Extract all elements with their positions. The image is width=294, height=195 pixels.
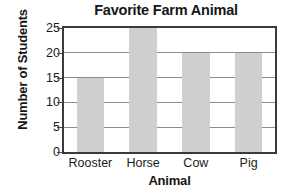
bar (77, 78, 104, 152)
x-axis-tick-label: Horse (117, 156, 170, 170)
y-axis-tick-mark (57, 28, 62, 29)
x-axis-tick-label: Pig (222, 156, 275, 170)
bar (129, 28, 156, 152)
y-axis-tick-labels: 0510152025 (36, 0, 60, 195)
bar-chart: Favorite Farm Animal Number of Students … (0, 0, 294, 195)
y-axis-tick-mark (57, 78, 62, 79)
x-axis-tick-label: Cow (170, 156, 223, 170)
x-axis-tick-labels: RoosterHorseCowPig (62, 156, 277, 172)
chart-title: Favorite Farm Animal (46, 2, 286, 18)
bar (235, 53, 262, 152)
y-axis-tick-mark (57, 53, 62, 54)
y-axis-tick-mark (57, 102, 62, 103)
y-axis-tick-mark (57, 152, 62, 153)
y-axis-tick-mark (57, 127, 62, 128)
plot-area (62, 26, 277, 154)
x-axis-title: Animal (62, 173, 277, 188)
y-axis-title: Number of Students (15, 0, 30, 144)
bar (182, 53, 209, 152)
x-axis-tick-label: Rooster (64, 156, 117, 170)
